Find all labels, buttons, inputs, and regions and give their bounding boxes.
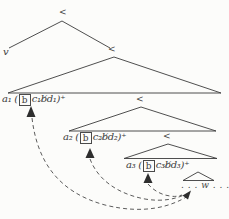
- yield-label-2: a₂ (bc₂b̸d₂)⁺: [63, 131, 126, 144]
- dashed-arrow-to-b3: [148, 184, 182, 196]
- edge-root-to-subtree: [62, 21, 110, 48]
- yield-3-prefix: a₃ (: [126, 159, 142, 170]
- yield-1-suffix: c₁b̸d₁)⁺: [32, 93, 66, 104]
- node-symbol-level-3: <: [163, 132, 171, 141]
- arrowhead-b1: [27, 106, 36, 117]
- boxed-b-1: b: [19, 94, 31, 106]
- boxed-b-3: b: [143, 160, 155, 172]
- boxed-b-2: b: [80, 132, 92, 144]
- arrowhead-b3: [144, 173, 153, 183]
- yield-label-3: a₃ (bc₃b̸d₃)⁺: [126, 159, 189, 172]
- yield-1-prefix: a₁ (: [2, 93, 18, 104]
- arrow-origin-tip: [183, 191, 192, 200]
- triangle-level-1: [8, 57, 221, 93]
- triangle-level-2: [69, 107, 216, 131]
- leaf-v-label: v: [3, 47, 9, 57]
- edge-root-to-v: [9, 21, 62, 48]
- arrowhead-b2: [86, 148, 95, 158]
- triangle-level-3: [124, 144, 217, 159]
- ellipsis-w-label: . . . w . . .: [181, 181, 229, 190]
- yield-2-prefix: a₂ (: [63, 131, 79, 142]
- derivation-tree-diagram: < < < < v a₁ (bc₁b̸d₁)⁺ a₂ (bc₂b̸d₂)⁺ a₃…: [0, 0, 229, 219]
- yield-3-suffix: c₃b̸d₃)⁺: [156, 159, 190, 170]
- yield-2-suffix: c₂b̸d₂)⁺: [93, 131, 127, 142]
- root-node-symbol: <: [59, 8, 67, 17]
- yield-label-1: a₁ (bc₁b̸d₁)⁺: [2, 93, 65, 106]
- node-symbol-level-1: <: [108, 45, 116, 54]
- node-symbol-level-2: <: [136, 95, 144, 104]
